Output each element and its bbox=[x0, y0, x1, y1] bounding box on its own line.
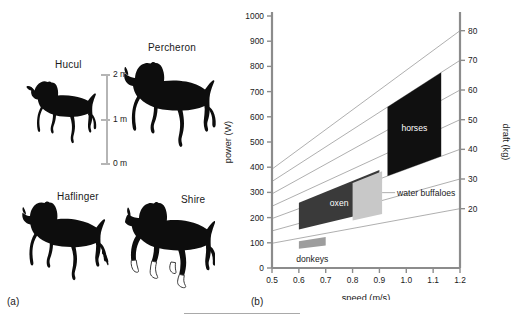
y2-ticklabel-40: 40 bbox=[468, 144, 478, 154]
horse-silhouette-shire bbox=[125, 196, 215, 290]
panel-a-tag: (a) bbox=[7, 296, 19, 307]
y-ticklabel-100: 100 bbox=[250, 238, 264, 248]
x-ticklabel-0.8: 0.8 bbox=[347, 275, 359, 285]
scale-tick-2m bbox=[101, 74, 110, 76]
scale-label-0m: 0 m bbox=[113, 158, 127, 168]
y-ticklabel-600: 600 bbox=[250, 112, 264, 122]
x-ticklabel-0.6: 0.6 bbox=[293, 275, 305, 285]
y-ticklabel-300: 300 bbox=[250, 187, 264, 197]
region-donkeys bbox=[299, 237, 326, 249]
x-ticklabel-0.5: 0.5 bbox=[266, 275, 278, 285]
y2-ticklabel-30: 30 bbox=[468, 174, 478, 184]
scale-label-1m: 1 m bbox=[113, 114, 127, 124]
x-ticklabel-0.7: 0.7 bbox=[320, 275, 332, 285]
bottom-rule bbox=[184, 313, 300, 314]
y2-ticklabel-50: 50 bbox=[468, 115, 478, 125]
y-ticklabel-1000: 1000 bbox=[245, 11, 264, 21]
x-ticklabel-1: 1.0 bbox=[400, 275, 412, 285]
y-axis-title: power (W) bbox=[223, 121, 233, 163]
breed-label-hucul: Hucul bbox=[55, 59, 82, 70]
y-ticklabel-0: 0 bbox=[259, 263, 264, 273]
horse-silhouette-hucul bbox=[22, 75, 102, 147]
y-ticklabel-900: 900 bbox=[250, 36, 264, 46]
y-ticklabel-400: 400 bbox=[250, 162, 264, 172]
y-ticklabel-800: 800 bbox=[250, 61, 264, 71]
panel-b-tag: (b) bbox=[251, 296, 263, 307]
y-ticklabel-700: 700 bbox=[250, 87, 264, 97]
scale-label-2m: 2 m bbox=[113, 69, 127, 79]
y2-ticklabel-70: 70 bbox=[468, 55, 478, 65]
y-ticklabel-500: 500 bbox=[250, 137, 264, 147]
axes-group: 010020030040050060070080090010000.50.60.… bbox=[223, 11, 511, 300]
y2-ticklabel-80: 80 bbox=[468, 26, 478, 36]
label-water-buffaloes: water buffaloes bbox=[396, 188, 455, 198]
animal-regions-group bbox=[299, 73, 441, 249]
label-oxen: oxen bbox=[330, 198, 349, 208]
breed-label-percheron: Percheron bbox=[148, 42, 196, 53]
power-speed-plot: 010020030040050060070080090010000.50.60.… bbox=[215, 0, 518, 300]
label-horses: horses bbox=[401, 123, 427, 133]
x-axis-title: speed (m/s) bbox=[342, 293, 391, 300]
x-ticklabel-1.1: 1.1 bbox=[427, 275, 439, 285]
region-water-buffaloes bbox=[353, 171, 383, 220]
y2-ticklabel-20: 20 bbox=[468, 204, 478, 214]
y2-axis-title: draft (kg) bbox=[501, 124, 511, 161]
panel-a-horse-breeds: Hucul Percheron Haflinger Shire bbox=[0, 0, 215, 326]
y-ticklabel-200: 200 bbox=[250, 213, 264, 223]
panel-b-power-speed-chart: 010020030040050060070080090010000.50.60.… bbox=[215, 0, 518, 326]
scale-tick-0m bbox=[101, 163, 110, 165]
height-scale-bar: 2 m 1 m 0 m bbox=[98, 72, 154, 168]
y2-ticklabel-60: 60 bbox=[468, 85, 478, 95]
horse-silhouette-haflinger bbox=[18, 196, 110, 288]
scale-tick-1m bbox=[101, 119, 110, 121]
x-ticklabel-1.2: 1.2 bbox=[454, 275, 466, 285]
label-donkeys: donkeys bbox=[296, 254, 328, 264]
x-ticklabel-0.9: 0.9 bbox=[374, 275, 386, 285]
